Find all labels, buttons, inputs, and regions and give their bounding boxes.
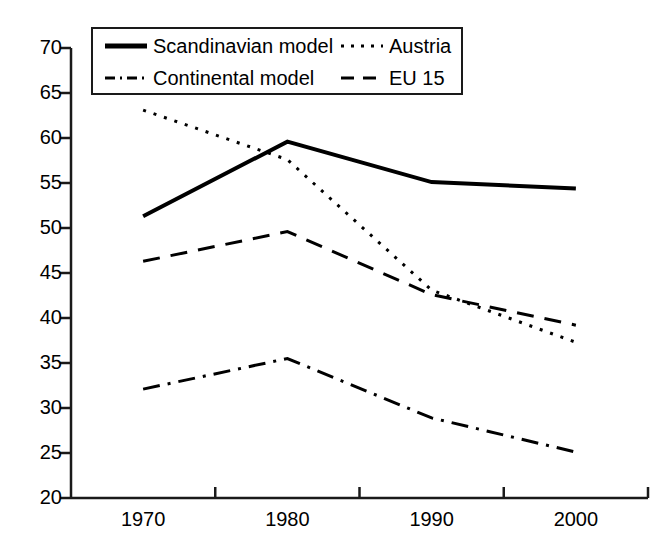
series-line: [143, 110, 576, 342]
y-axis-tick-label: 40: [18, 306, 62, 329]
legend-entry-austria: Austria: [339, 36, 451, 56]
x-axis-tick-label: 1990: [387, 508, 477, 531]
y-axis-tick-label: 30: [18, 396, 62, 419]
y-axis-tick-label: 35: [18, 351, 62, 374]
axis-lines: [71, 48, 648, 498]
series-line: [143, 359, 576, 453]
legend-swatch-dashed-icon: [339, 71, 385, 85]
x-axis-ticks: [215, 487, 504, 498]
y-axis-tick-label: 50: [18, 216, 62, 239]
legend-entry-eu-15: EU 15: [339, 68, 445, 88]
x-axis-tick-label: 1970: [98, 508, 188, 531]
legend-entry-scandinavian-model: Scandinavian model: [103, 36, 333, 56]
legend-entry-continental-model: Continental model: [103, 68, 314, 88]
y-axis-tick-label: 65: [18, 81, 62, 104]
series-line: [143, 142, 576, 217]
x-axis-tick-label: 2000: [531, 508, 621, 531]
line-chart: 7065605550454035302520 1970198019902000 …: [0, 0, 669, 558]
legend-label-eu-15: EU 15: [389, 68, 445, 88]
y-axis-tick-label: 60: [18, 126, 62, 149]
legend-swatch-solid-icon: [103, 39, 149, 53]
y-axis-tick-label: 20: [18, 486, 62, 509]
y-axis-tick-label: 45: [18, 261, 62, 284]
y-axis-tick-label: 55: [18, 171, 62, 194]
series-line: [143, 232, 576, 326]
legend-label-scandinavian-model: Scandinavian model: [153, 36, 333, 56]
legend-label-continental-model: Continental model: [153, 68, 314, 88]
legend-swatch-dashdot-icon: [103, 71, 149, 85]
legend-swatch-dotted-icon: [339, 39, 385, 53]
data-series-group: [143, 110, 576, 452]
chart-legend: Scandinavian model Austria Continental m…: [91, 27, 463, 95]
y-axis-tick-label: 25: [18, 441, 62, 464]
x-axis-tick-label: 1980: [242, 508, 332, 531]
legend-label-austria: Austria: [389, 36, 451, 56]
y-axis-tick-label: 70: [18, 36, 62, 59]
